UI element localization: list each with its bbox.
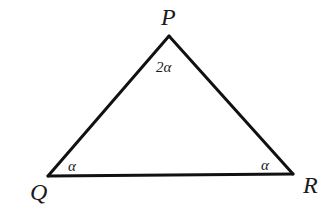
edge-qr [48, 174, 293, 176]
vertex-label-q: Q [30, 179, 47, 205]
angle-label-q: α [68, 158, 77, 174]
vertex-label-r: R [302, 172, 318, 198]
triangle-diagram: P Q R 2α α α [0, 0, 330, 220]
vertex-label-p: P [160, 4, 176, 30]
edge-rp [169, 36, 293, 174]
edge-pq [48, 36, 169, 176]
triangle-edges [48, 36, 293, 176]
angle-label-r: α [261, 157, 270, 173]
angle-label-p: 2α [156, 59, 173, 75]
